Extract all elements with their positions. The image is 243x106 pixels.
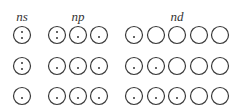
orbital-np-row1-3 [91, 27, 108, 44]
electron-dot [56, 37, 58, 39]
orbital-nd-row2-3 [169, 58, 186, 75]
orbital-ns-row2-1 [14, 58, 31, 75]
electron-dot [133, 67, 135, 69]
orbital-nd-row1-3 [169, 27, 186, 44]
electron-dot [21, 31, 23, 33]
orbital-np-row2-1 [49, 58, 66, 75]
orbital-np-row3-3 [91, 88, 108, 105]
electron-dot [77, 67, 79, 69]
orbital-nd-row3-2 [148, 88, 165, 105]
orbital-nd-row1-1 [126, 27, 143, 44]
electron-dot [56, 67, 58, 69]
electron-dot [98, 67, 100, 69]
electron-dot [77, 36, 79, 38]
electron-dot [176, 97, 178, 99]
electron-dot [77, 97, 79, 99]
orbital-np-row3-1 [49, 88, 66, 105]
orbital-nd-row2-5 [212, 58, 229, 75]
orbital-np-row1-1 [49, 27, 66, 44]
orbital-nd-row1-5 [212, 27, 229, 44]
orbital-ns-row1-1 [14, 27, 31, 44]
orbital-nd-row2-4 [191, 58, 208, 75]
electron-dot [56, 31, 58, 33]
electron-dot [155, 67, 157, 69]
electron-dot [21, 97, 23, 99]
electron-dot [155, 97, 157, 99]
orbital-diagram [0, 0, 243, 106]
orbital-np-row1-2 [70, 27, 87, 44]
orbital-nd-row1-4 [191, 27, 208, 44]
electron-dot [21, 37, 23, 39]
electron-dot [98, 36, 100, 38]
orbital-np-row2-2 [70, 58, 87, 75]
electron-dot [21, 68, 23, 70]
orbital-nd-row3-3 [169, 88, 186, 105]
electron-dot [21, 62, 23, 64]
electron-dot [98, 97, 100, 99]
electron-dot [56, 97, 58, 99]
orbital-nd-row2-1 [126, 58, 143, 75]
electron-dot [133, 97, 135, 99]
orbital-nd-row3-4 [191, 88, 208, 105]
orbital-nd-row2-2 [148, 58, 165, 75]
orbital-nd-row3-1 [126, 88, 143, 105]
orbital-nd-row1-2 [148, 27, 165, 44]
orbital-nd-row3-5 [212, 88, 229, 105]
orbital-ns-row3-1 [14, 88, 31, 105]
orbital-np-row2-3 [91, 58, 108, 75]
electron-dot [133, 36, 135, 38]
orbital-np-row3-2 [70, 88, 87, 105]
